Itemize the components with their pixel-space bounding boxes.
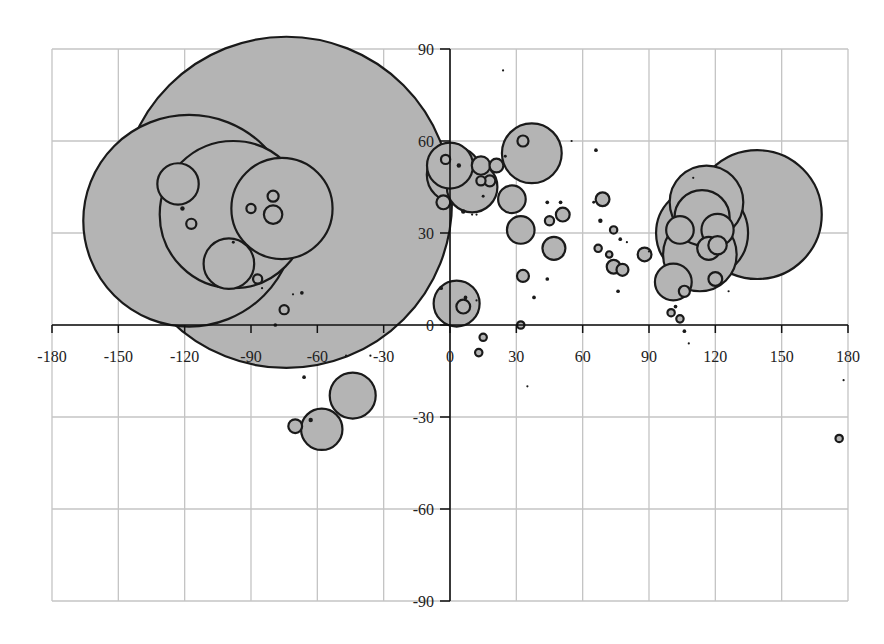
data-bubble xyxy=(708,272,722,286)
data-point xyxy=(464,296,468,300)
data-bubble xyxy=(502,123,562,183)
x-tick-label: 120 xyxy=(703,348,727,365)
data-point xyxy=(674,305,678,309)
data-bubble xyxy=(301,409,342,450)
data-point xyxy=(571,140,573,142)
data-bubble xyxy=(542,237,565,260)
data-point xyxy=(688,342,690,344)
data-point xyxy=(457,163,461,167)
data-point xyxy=(180,206,184,210)
data-point xyxy=(594,148,598,152)
data-bubble xyxy=(288,419,302,433)
data-bubble xyxy=(606,251,612,257)
bubble-chart: -180-150-120-90-60-300306090120150180 90… xyxy=(0,0,884,644)
y-tick-label: -30 xyxy=(413,409,434,426)
data-bubble xyxy=(280,305,289,314)
data-point xyxy=(526,385,528,387)
data-point xyxy=(439,286,443,290)
data-bubble xyxy=(253,274,262,283)
data-bubble xyxy=(610,226,617,233)
data-point xyxy=(232,241,235,244)
data-point xyxy=(648,250,650,252)
bubble-series xyxy=(83,37,844,450)
data-bubble xyxy=(517,135,528,146)
x-tick-label: -30 xyxy=(373,348,394,365)
data-point xyxy=(475,299,477,301)
data-bubble xyxy=(666,216,694,244)
data-point xyxy=(598,219,602,223)
data-bubble xyxy=(472,156,490,174)
data-bubble xyxy=(204,238,255,289)
data-point xyxy=(692,177,694,179)
data-point xyxy=(616,289,620,293)
data-point xyxy=(302,375,306,379)
data-point xyxy=(842,379,844,381)
data-bubble xyxy=(667,309,674,316)
data-point xyxy=(308,418,312,422)
y-tick-label: 0 xyxy=(426,317,434,334)
data-bubble xyxy=(556,208,570,222)
data-bubble xyxy=(264,205,282,223)
data-bubble xyxy=(157,163,198,204)
data-bubble xyxy=(490,159,504,173)
data-bubble xyxy=(594,245,601,252)
data-bubble xyxy=(596,192,610,206)
data-point xyxy=(292,293,294,295)
x-tick-label: -60 xyxy=(307,348,328,365)
data-bubble xyxy=(517,270,529,282)
y-tick-label: 30 xyxy=(418,225,434,242)
data-point xyxy=(300,291,304,295)
data-point xyxy=(345,355,347,357)
y-tick-label: -60 xyxy=(413,501,434,518)
y-tick-label: -90 xyxy=(413,593,434,610)
data-bubble xyxy=(676,315,683,322)
x-tick-label: 60 xyxy=(575,348,591,365)
data-bubble xyxy=(475,349,482,356)
data-bubble xyxy=(330,373,376,419)
data-point xyxy=(618,237,622,241)
data-bubble xyxy=(456,300,470,314)
data-point xyxy=(532,296,536,300)
data-bubble xyxy=(616,264,628,276)
data-point xyxy=(461,209,465,213)
data-point xyxy=(471,214,473,216)
data-bubble xyxy=(479,334,486,341)
data-bubble xyxy=(246,204,255,213)
data-bubble xyxy=(507,216,535,244)
data-point xyxy=(545,200,549,204)
data-bubble xyxy=(498,185,526,213)
data-bubble xyxy=(268,191,279,202)
data-bubble xyxy=(708,236,726,254)
data-point xyxy=(502,69,504,71)
x-tick-label: 90 xyxy=(641,348,657,365)
x-tick-label: 0 xyxy=(446,348,454,365)
data-bubble xyxy=(545,216,554,225)
data-bubble xyxy=(476,176,485,185)
data-point xyxy=(504,155,507,158)
data-bubble xyxy=(835,435,842,442)
y-tick-label: 90 xyxy=(418,41,434,58)
data-point xyxy=(683,329,687,333)
data-point xyxy=(626,241,628,243)
x-tick-label: -180 xyxy=(37,348,66,365)
data-point xyxy=(559,200,563,204)
data-bubble xyxy=(679,286,690,297)
data-bubble xyxy=(186,219,196,229)
y-tick-label: 60 xyxy=(418,133,434,150)
data-point xyxy=(545,277,549,281)
x-axis-ticks: -180-150-120-90-60-300306090120150180 xyxy=(37,325,860,365)
data-point xyxy=(261,287,263,289)
x-tick-label: 150 xyxy=(770,348,794,365)
data-bubble xyxy=(638,248,652,262)
x-tick-label: -120 xyxy=(170,348,199,365)
x-tick-label: -90 xyxy=(240,348,261,365)
data-bubble xyxy=(436,195,450,209)
data-point xyxy=(592,201,595,204)
x-tick-label: 30 xyxy=(508,348,524,365)
data-point xyxy=(727,290,729,292)
x-tick-label: -150 xyxy=(104,348,133,365)
data-point xyxy=(369,355,371,357)
data-point xyxy=(475,214,477,216)
x-tick-label: 180 xyxy=(836,348,860,365)
data-point xyxy=(482,195,485,198)
